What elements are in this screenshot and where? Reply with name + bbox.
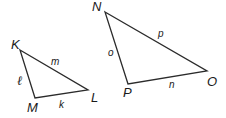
diagram-canvas: K L M m ℓ k N O P p o n xyxy=(0,0,226,118)
triangle-klm: K L M m ℓ k xyxy=(11,37,98,115)
triangles-figure: K L M m ℓ k N O P p o n xyxy=(0,0,226,118)
vertex-label-p: P xyxy=(123,85,132,100)
vertex-label-m: M xyxy=(27,100,38,115)
vertex-label-k: K xyxy=(11,37,21,52)
side-label-ell: ℓ xyxy=(17,73,23,88)
side-label-n: n xyxy=(169,79,175,90)
vertex-label-l: L xyxy=(91,90,98,105)
triangle-nop-outline xyxy=(105,12,207,84)
vertex-label-o: O xyxy=(207,74,217,89)
side-label-m: m xyxy=(51,56,59,67)
side-label-o: o xyxy=(108,47,114,58)
side-label-p: p xyxy=(157,28,164,39)
side-label-k: k xyxy=(59,99,65,110)
vertex-label-n: N xyxy=(92,0,102,14)
triangle-nop: N O P p o n xyxy=(92,0,217,100)
